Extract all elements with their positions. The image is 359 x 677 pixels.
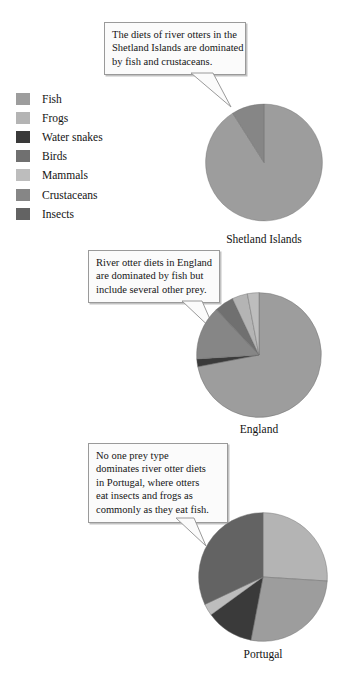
- legend-item-birds: Birds: [16, 147, 156, 166]
- pie-chart-portugal: Portugal: [198, 512, 328, 677]
- pie-chart-shetland: Shetland Islands: [205, 95, 323, 250]
- pie-slice-frogs: [263, 513, 327, 581]
- legend-label-birds: Birds: [42, 150, 67, 162]
- legend-swatch-birds: [16, 150, 30, 162]
- legend-label-water-snakes: Water snakes: [42, 131, 103, 143]
- legend-item-crustaceans: Crustaceans: [16, 185, 156, 204]
- legend-swatch-mammals: [16, 169, 30, 181]
- pie-england-title: England: [196, 423, 322, 435]
- pie-chart-england: England: [196, 292, 322, 452]
- callout-portugal-line-3: in Portugal, where otters: [96, 476, 220, 489]
- legend: Fish Frogs Water snakes Birds Mammals Cr…: [16, 89, 156, 223]
- pie-portugal-title: Portugal: [198, 648, 328, 660]
- legend-label-crustaceans: Crustaceans: [42, 189, 98, 201]
- callout-shetland-line-1: The diets of river otters in the: [112, 28, 238, 41]
- callout-shetland-line-3: by fish and crustaceans.: [112, 55, 238, 68]
- legend-label-frogs: Frogs: [42, 112, 68, 124]
- legend-item-fish: Fish: [16, 89, 156, 108]
- pie-england-svg: [196, 292, 322, 418]
- legend-item-water-snakes: Water snakes: [16, 127, 156, 146]
- legend-label-mammals: Mammals: [42, 169, 88, 181]
- callout-england-line-3: include several other prey.: [96, 283, 212, 296]
- legend-swatch-frogs: [16, 112, 30, 124]
- legend-swatch-water-snakes: [16, 131, 30, 143]
- pie-portugal-svg: [198, 512, 328, 642]
- legend-item-mammals: Mammals: [16, 166, 156, 185]
- legend-item-frogs: Frogs: [16, 108, 156, 127]
- callout-portugal-line-4: eat insects and frogs as: [96, 489, 220, 502]
- legend-label-insects: Insects: [42, 208, 74, 220]
- figure-canvas: Fish Frogs Water snakes Birds Mammals Cr…: [0, 0, 359, 677]
- callout-england-line-1: River otter diets in England: [96, 256, 212, 269]
- legend-label-fish: Fish: [42, 93, 62, 105]
- pie-slice-fish: [251, 577, 327, 641]
- callout-shetland-line-2: Shetland Islands are dominated: [112, 41, 238, 54]
- legend-swatch-insects: [16, 208, 30, 220]
- callout-portugal-line-2: dominates river otter diets: [96, 462, 220, 475]
- legend-swatch-fish: [16, 93, 30, 105]
- legend-swatch-crustaceans: [16, 189, 30, 201]
- legend-item-insects: Insects: [16, 204, 156, 223]
- callout-shetland: The diets of river otters in the Shetlan…: [104, 22, 246, 75]
- callout-england-line-2: are dominated by fish but: [96, 269, 212, 282]
- pie-shetland-svg: [205, 95, 323, 230]
- pie-shetland-title: Shetland Islands: [205, 233, 323, 245]
